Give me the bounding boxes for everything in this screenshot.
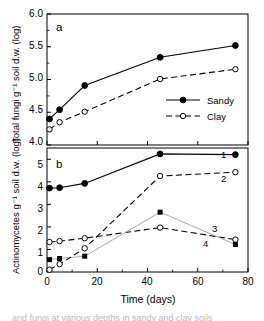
- legend-key-sandy: [166, 97, 200, 103]
- figure-container: Total fungi g⁻¹ soil d.w. (log) Actinomy…: [0, 0, 264, 321]
- caption-fragment: and fungi at various depths in sandy and…: [12, 313, 256, 321]
- plot-canvas: [0, 0, 264, 321]
- legend-key-clay: [166, 113, 200, 118]
- series-sandy-panel-a: [47, 43, 239, 122]
- panel-a-axes: [47, 14, 248, 145]
- series-4-panel-b: [47, 225, 238, 245]
- series-clay-panel-a: [47, 67, 238, 133]
- series-1-panel-b: [47, 151, 239, 191]
